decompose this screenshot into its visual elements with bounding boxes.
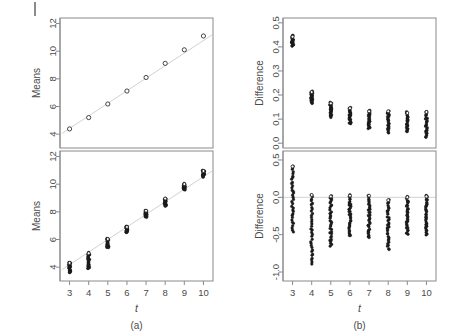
point-top-left-4 (144, 75, 148, 79)
data-points-top-right (290, 34, 428, 139)
y-tick-label-top-left-1: 6 (48, 104, 59, 109)
subpanel-top-left: 4681012Means (31, 18, 214, 148)
x-tick-label-bottom-right-5: 8 (386, 287, 391, 298)
y-tick-label-top-right-3: 0.3 (271, 64, 282, 77)
point-open-top-top-right-0 (291, 35, 294, 38)
plot-frame-bottom-right (283, 151, 436, 281)
y-tick-label-top-left-4: 12 (48, 18, 59, 29)
point-open-top-top-right-2 (329, 102, 332, 105)
point-top-right-5-25 (387, 132, 390, 135)
x-tick-label-bottom-right-6: 9 (405, 287, 410, 298)
point-open-top-bottom-right-2 (329, 195, 332, 198)
y-tick-label-top-right-1: 0.1 (271, 113, 282, 126)
point-top-left-1 (87, 115, 91, 119)
subpanel-bottom-left: 4681012Means345678910t(a) (31, 151, 214, 331)
x-tick-label-bottom-right-7: 10 (421, 287, 432, 298)
point-open-top-top-right-3 (348, 107, 351, 110)
point-open-top-bottom-right-0 (291, 165, 294, 168)
y-tick-label-top-left-2: 8 (48, 76, 59, 81)
point-bottom-right-1-8 (310, 210, 313, 213)
x-tick-label-bottom-left-5: 8 (163, 287, 168, 298)
point-bottom-right-1-25 (311, 246, 314, 249)
point-bottom-left-6-23 (183, 188, 186, 191)
point-bottom-right-0-7 (290, 178, 293, 181)
point-bottom-right-6-33 (407, 233, 410, 236)
point-top-right-6-25 (405, 130, 408, 133)
point-bottom-right-1-29 (311, 254, 314, 257)
x-tick-label-bottom-left-1: 4 (86, 287, 91, 298)
y-tick-label-top-right-2: 0.2 (271, 88, 282, 101)
x-tick-label-bottom-left-6: 9 (182, 287, 187, 298)
point-bottom-right-1-27 (310, 250, 313, 253)
point-top-left-5 (163, 61, 167, 65)
y-tick-label-bottom-right-1: -0.5 (271, 226, 282, 242)
x-tick-label-bottom-left-7: 10 (198, 287, 209, 298)
point-bottom-left-2-25 (107, 246, 110, 249)
point-bottom-right-5-23 (386, 232, 389, 235)
x-tick-label-bottom-left-2: 5 (105, 287, 110, 298)
point-open-top-top-right-7 (425, 111, 428, 114)
point-bottom-right-4-25 (368, 225, 371, 228)
point-open-top-top-right-5 (387, 110, 390, 113)
y-tick-label-bottom-left-0: 4 (48, 265, 59, 270)
data-points-top-left (67, 34, 205, 131)
x-axis-title-bottom-left: t (135, 302, 139, 314)
point-bottom-right-1-17 (311, 229, 314, 232)
point-top-left-6 (182, 48, 186, 52)
plot-frame-top-right (283, 18, 436, 148)
y-tick-label-top-right-0: 0.0 (271, 137, 282, 150)
point-open-top-bottom-left-0 (68, 261, 71, 264)
point-bottom-right-0-19 (291, 202, 294, 205)
trendline-bottom-left (62, 171, 212, 270)
point-open-top-bottom-right-1 (310, 193, 313, 196)
point-bottom-left-0-25 (68, 271, 71, 274)
point-top-right-2-25 (330, 116, 333, 119)
point-top-left-2 (106, 102, 110, 106)
y-tick-label-bottom-right-0: -1.0 (271, 264, 282, 280)
point-bottom-right-2-33 (329, 245, 332, 248)
point-open-top-bottom-right-4 (368, 194, 371, 197)
y-tick-label-bottom-left-4: 12 (48, 151, 59, 162)
panel-a-canvas: 4681012Means4681012Means345678910t(a) (0, 8, 230, 335)
point-bottom-right-0-11 (291, 186, 294, 189)
point-bottom-right-1-5 (310, 203, 313, 206)
point-open-top-bottom-right-3 (348, 194, 351, 197)
panel-caption-bottom-left: (a) (130, 320, 142, 331)
point-bottom-right-5-33 (388, 248, 391, 251)
point-bottom-right-1-21 (311, 238, 314, 241)
point-bottom-right-2-15 (329, 217, 332, 220)
point-bottom-right-4-33 (368, 236, 371, 239)
point-open-top-top-right-4 (368, 110, 371, 113)
point-bottom-right-0-33 (292, 231, 295, 234)
x-tick-label-bottom-right-3: 6 (347, 287, 352, 298)
point-open-top-bottom-left-5 (164, 197, 167, 200)
x-tick-label-bottom-right-2: 5 (328, 287, 333, 298)
point-bottom-right-1-3 (310, 199, 313, 202)
point-open-top-bottom-left-7 (202, 169, 205, 172)
point-open-top-bottom-left-4 (145, 209, 148, 212)
point-top-right-7-5 (425, 115, 428, 118)
y-tick-label-top-right-4: 0.4 (271, 40, 282, 53)
x-axis-title-bottom-right: t (358, 302, 362, 314)
point-top-right-7-25 (425, 136, 428, 139)
panel-b-canvas: 0.00.10.20.30.40.5Difference-1.0-0.50.00… (223, 8, 453, 335)
point-bottom-right-5-10 (387, 213, 390, 216)
point-bottom-right-1-33 (310, 263, 313, 266)
y-tick-label-top-right-5: 0.5 (271, 16, 282, 29)
y-tick-label-bottom-left-1: 6 (48, 237, 59, 242)
point-bottom-left-3-23 (125, 231, 128, 234)
plot-frame-bottom-left (60, 151, 213, 281)
point-open-top-bottom-left-6 (183, 183, 186, 186)
point-bottom-right-7-14 (425, 210, 428, 213)
point-bottom-right-5-21 (386, 229, 389, 232)
x-tick-label-bottom-right-4: 7 (366, 287, 371, 298)
point-open-top-bottom-right-6 (406, 196, 409, 199)
point-bottom-right-1-15 (310, 225, 313, 228)
point-bottom-right-5-31 (386, 245, 389, 248)
figure-root: 4681012Means4681012Means345678910t(a) 0.… (0, 0, 453, 335)
point-bottom-right-0-4 (292, 172, 295, 175)
point-open-top-bottom-left-2 (106, 238, 109, 241)
point-bottom-right-0-23 (292, 210, 295, 213)
subpanel-top-right: 0.00.10.20.30.40.5Difference (254, 16, 437, 150)
y-tick-label-top-left-3: 10 (48, 46, 59, 57)
